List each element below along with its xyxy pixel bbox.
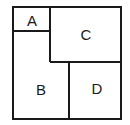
region-b-label: B bbox=[36, 81, 46, 98]
region-a-label: A bbox=[27, 12, 37, 29]
region-c-label: C bbox=[81, 26, 92, 43]
partition-diagram: A B C D bbox=[0, 0, 130, 125]
region-d-label: D bbox=[92, 80, 103, 97]
